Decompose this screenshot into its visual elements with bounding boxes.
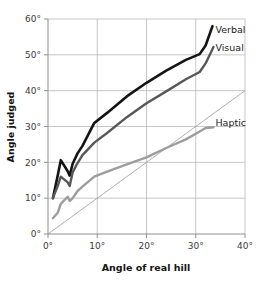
line-chart: 0°10°20°30°40° 0°10°20°30°40°50°60° Verb… (0, 0, 272, 284)
x-tick-label: 20° (139, 241, 155, 251)
y-tick-label: 0° (31, 229, 41, 239)
x-tick-label: 40° (237, 241, 253, 251)
y-tick-label: 40° (25, 86, 41, 96)
x-tick-label: 10° (89, 241, 105, 251)
chart-figure: 0°10°20°30°40° 0°10°20°30°40°50°60° Verb… (0, 0, 272, 284)
verbal-label: Verbal (215, 24, 245, 35)
x-tick-label: 0° (43, 241, 53, 251)
x-axis-title: Angle of real hill (102, 262, 191, 273)
y-tick-label: 60° (25, 14, 41, 24)
y-tick-label: 30° (25, 122, 41, 132)
y-axis-title: Angle judged (5, 92, 16, 163)
y-tick-label: 20° (25, 158, 41, 168)
y-tick-label: 10° (25, 193, 41, 203)
x-tick-label: 30° (188, 241, 204, 251)
visual-label: Visual (215, 42, 243, 53)
haptic-label: Haptic (215, 117, 246, 128)
y-tick-label: 50° (25, 50, 41, 60)
